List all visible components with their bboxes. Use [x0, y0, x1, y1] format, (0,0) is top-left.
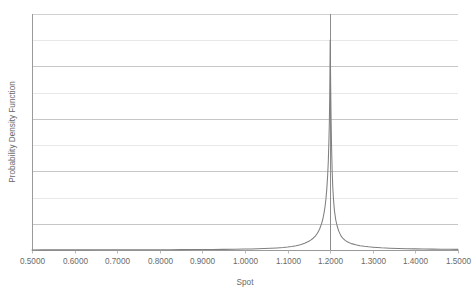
pdf-line-chart: 0.50000.60000.70000.80000.90001.00001.10… — [0, 0, 473, 297]
x-axis-title: Spot — [237, 278, 255, 287]
x-tick-label: 0.6000 — [63, 257, 88, 266]
x-tick-label: 0.9000 — [190, 257, 215, 266]
x-tick-label: 0.5000 — [20, 257, 45, 266]
x-tick-label: 1.1000 — [276, 257, 301, 266]
x-tick-label: 1.4000 — [403, 257, 428, 266]
chart-container: 0.50000.60000.70000.80000.90001.00001.10… — [0, 0, 473, 297]
y-axis-title: Probability Density Function — [8, 81, 17, 183]
x-tick-label: 0.7000 — [105, 257, 130, 266]
chart-background — [0, 0, 473, 297]
x-tick-label: 1.0000 — [233, 257, 258, 266]
x-tick-label: 0.8000 — [148, 257, 173, 266]
x-tick-label: 1.2000 — [318, 257, 343, 266]
x-tick-labels-group: 0.50000.60000.70000.80000.90001.00001.10… — [20, 257, 471, 266]
x-tick-label: 1.3000 — [361, 257, 386, 266]
x-tick-label: 1.5000 — [446, 257, 471, 266]
